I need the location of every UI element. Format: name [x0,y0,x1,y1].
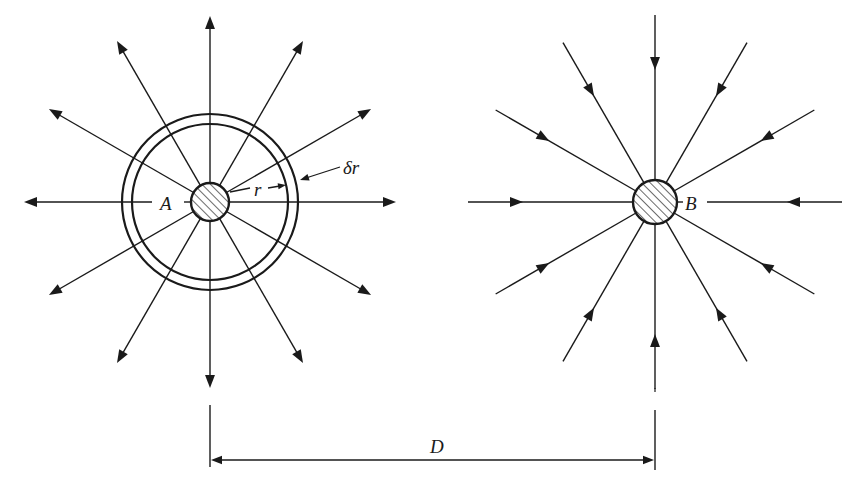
arrowhead-icon [536,263,550,274]
diagram-canvas: A r δr B D [0,0,868,503]
arrowhead-icon [292,41,303,55]
field-line [666,43,747,183]
arrowhead-icon [761,130,775,141]
arrowhead-icon [583,308,594,322]
field-line [674,110,814,191]
arrowhead-icon [49,109,63,120]
field-line [666,221,747,361]
arrowhead-icon [787,197,800,207]
arrowhead-icon [650,334,660,347]
arrowhead-icon [716,83,727,97]
sink-b-field [468,15,842,389]
arrowhead-icon [205,375,215,388]
arrowhead-icon [117,349,128,363]
arrowhead-icon [536,130,550,141]
arrowhead-icon [357,284,371,295]
arrowhead-icon [583,83,594,97]
dimension-arrow-right-icon [643,456,654,464]
source-a-field [24,16,396,388]
field-line [563,221,644,361]
field-line [563,43,644,183]
radius-label: r [254,179,262,200]
source-label: A [158,193,172,214]
arrowhead-icon [292,349,303,363]
arrowhead-icon [205,16,215,29]
sink-label: B [685,193,697,214]
arrowhead-icon [24,197,37,207]
arrowhead-icon [117,41,128,55]
thickness-arrow-icon [300,174,310,181]
dimension-arrow-left-icon [211,456,222,464]
thickness-leader [306,167,340,178]
sink-body-hatched [633,180,677,224]
distance-label: D [429,436,444,457]
shell-thickness-label: δr [343,157,360,178]
field-line [674,213,814,294]
arrowhead-icon [510,197,523,207]
arrowhead-icon [761,263,775,274]
field-line [496,110,636,191]
arrowhead-icon [650,57,660,70]
arrowhead-icon [49,284,63,295]
source-body-hatched [191,183,229,221]
radius-arrow-icon [278,183,286,189]
arrowhead-icon [383,197,396,207]
distance-dimension [210,388,655,470]
field-line [496,213,636,294]
arrowhead-icon [716,308,727,322]
arrowhead-icon [357,109,371,120]
